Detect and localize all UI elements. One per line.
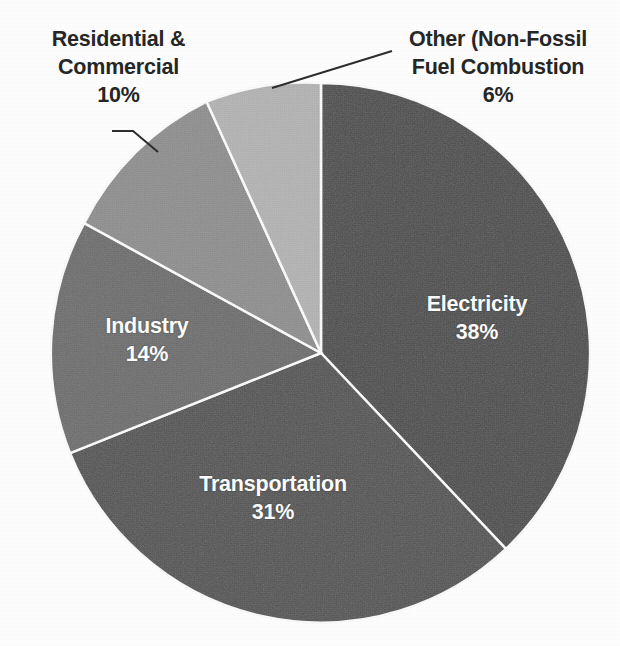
slice-label-transportation: Transportation 31%: [163, 470, 383, 527]
slice-label-electricity: Electricity 38%: [382, 290, 572, 347]
slice-label-residential-commercial: Residential & Commercial 10%: [6, 26, 231, 110]
slice-label-industry: Industry 14%: [62, 312, 232, 369]
pie-chart: Residential & Commercial 10% Other (Non-…: [0, 0, 620, 646]
slice-label-other: Other (Non-Fossil Fuel Combustion 6%: [382, 26, 614, 110]
